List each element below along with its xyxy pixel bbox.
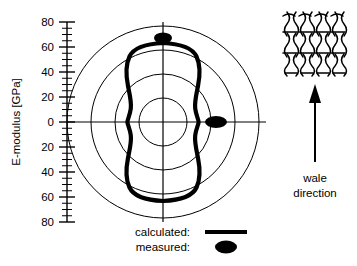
measured-points [154,33,227,129]
wale-label-line2: direction [293,187,336,199]
y-tick-label-20-top: 20 [41,91,54,103]
y-tick-label-20-bottom: 20 [41,141,54,153]
knit-row-3 [285,54,347,76]
measured-point-course-direction [205,116,227,128]
y-axis: 80 60 40 20 0 20 40 60 80 E-modulus [GPa… [10,16,75,228]
y-tick-label-40-top: 40 [41,66,54,78]
legend-label-calculated: calculated: [135,226,190,238]
arrow-head-icon [309,84,321,103]
legend-label-measured: measured: [136,241,190,253]
y-tick-label-60-bottom: 60 [41,191,54,203]
legend-swatch-measured-dot [215,241,237,254]
y-axis-title: E-modulus [GPa] [10,78,22,166]
knitted-fabric-icon [283,12,347,76]
figure-canvas: 80 60 40 20 0 20 40 60 80 E-modulus [GPa… [0,0,357,266]
wale-direction-arrow [309,84,321,162]
y-tick-label-40-bottom: 40 [41,166,54,178]
legend: calculated: measured: [135,226,247,254]
knit-row-2 [283,33,347,57]
polar-emodulus-figure: 80 60 40 20 0 20 40 60 80 E-modulus [GPa… [0,0,357,266]
y-tick-label-0: 0 [48,116,54,128]
y-tick-label-80-top: 80 [41,16,54,28]
wale-direction-label: wale direction [293,172,336,199]
knit-row-1 [283,12,347,36]
wale-label-line1: wale [302,172,327,184]
y-tick-label-80-bottom: 80 [41,216,54,228]
measured-point-wale-direction [154,33,172,44]
y-tick-label-60-top: 60 [41,41,54,53]
